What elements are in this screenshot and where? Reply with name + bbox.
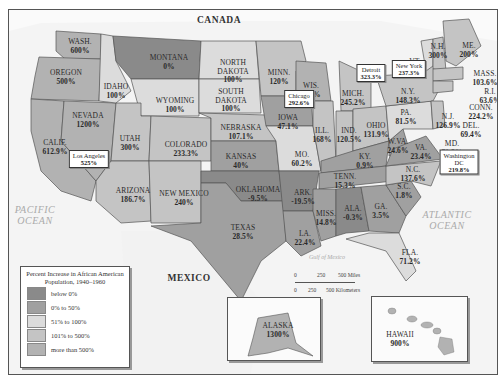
- inset-alaska: ALASKA1300%: [227, 297, 321, 361]
- scale-line: [295, 282, 355, 283]
- legend-item-below-0: below 0%: [27, 288, 129, 299]
- label-mo: MO.60.2%: [291, 151, 312, 168]
- scale-miles-250: 250: [317, 272, 325, 278]
- label-ri: R.I.63.6%: [479, 88, 498, 105]
- label-atlantic-ocean: ATLANTICOCEAN: [422, 209, 471, 231]
- label-wash: WASH.600%: [68, 38, 92, 55]
- label-ala: ALA.-0.3%: [343, 205, 363, 222]
- scale-miles-0: 0: [294, 272, 297, 278]
- legend-swatch: [27, 329, 46, 342]
- label-oregon: OREGON500%: [50, 69, 82, 86]
- legend-title: Percent Increase in African American Pop…: [21, 270, 129, 285]
- inset-hawaii: HAWAII900%: [371, 296, 468, 362]
- label-mass: MASS.103.6%: [473, 70, 498, 87]
- label-wyoming: WYOMING100%: [156, 97, 195, 114]
- label-south-dakota: SOUTH DAKOTA100%: [209, 88, 253, 114]
- label-fla: FLA.71.2%: [399, 249, 420, 266]
- legend-swatch: [27, 343, 46, 356]
- scale-miles-500: 500 Miles: [338, 272, 360, 278]
- legend-swatch: [27, 301, 46, 314]
- callout-new-york: New York237.3%: [392, 60, 426, 78]
- label-sc: S.C.1.8%: [395, 183, 412, 200]
- label-mich: MICH.245.2%: [341, 90, 366, 107]
- label-me: ME.200%: [459, 42, 478, 59]
- label-ky: KY.0.9%: [356, 153, 373, 170]
- label-nh: N.H.300%: [428, 43, 447, 60]
- label-utah: UTAH300%: [120, 135, 141, 152]
- label-miss: MISS.14.8%: [315, 210, 336, 227]
- state-conn: [433, 81, 453, 93]
- label-hawaii: HAWAII900%: [386, 331, 414, 348]
- label-nebraska: NEBRASKA107.1%: [220, 124, 261, 141]
- label-kansas: KANSAS40%: [226, 153, 257, 170]
- scale-km-0: 0: [294, 287, 297, 293]
- legend-item-0-50: 0% to 50%: [27, 302, 129, 313]
- label-pacific-ocean: PACIFICOCEAN: [15, 204, 56, 226]
- label-nj: N.J.126.9%: [436, 113, 461, 130]
- label-ny: N.Y.148.3%: [396, 88, 421, 105]
- scale-km-250: 250: [308, 287, 316, 293]
- legend-swatch: [27, 287, 46, 300]
- map-frame: WASH.600% OREGON500% CALIF.612.9% NEVADA…: [8, 9, 498, 375]
- label-ark: ARK.-19.5%: [291, 189, 315, 206]
- label-new-mexico: NEW MEXICO240%: [159, 190, 208, 207]
- label-ohio: OHIO131.9%: [364, 122, 389, 139]
- legend-swatch: [27, 315, 46, 328]
- label-oklahoma: OKLAHOMA-9.5%: [236, 186, 281, 203]
- callout-chicago: Chicago292.6%: [284, 90, 314, 108]
- label-wva: W.VA.24.6%: [387, 138, 408, 155]
- label-ind: IND.120.5%: [337, 127, 362, 144]
- label-va: VA.23.4%: [410, 144, 431, 161]
- label-minn: MINN.120%: [268, 69, 290, 86]
- label-montana: MONTANA0%: [150, 54, 188, 71]
- legend-item-101-500: 101% to 500%: [27, 330, 129, 341]
- label-calif: CALIF.612.9%: [43, 139, 68, 156]
- label-gulf-of-mexico: Gulf of Mexico: [309, 254, 345, 260]
- legend: Percent Increase in African American Pop…: [20, 266, 130, 368]
- label-la: LA.22.4%: [294, 230, 315, 247]
- callout-detroit: Detroit323.3%: [356, 64, 385, 82]
- state-mass: [433, 67, 463, 81]
- label-north-dakota: NORTH DAKOTA100%: [211, 59, 255, 85]
- label-alaska: ALASKA1300%: [262, 322, 293, 339]
- label-idaho: IDAHO100%: [104, 83, 129, 100]
- label-mexico: MEXICO: [167, 273, 210, 283]
- callout-washington-dc: Washington DC219.8%: [440, 150, 479, 175]
- legend-item-over-500: more than 500%: [27, 344, 129, 355]
- label-colorado: COLORADO233.3%: [165, 141, 207, 158]
- label-nevada: NEVADA1200%: [72, 112, 103, 129]
- callout-los-angeles: Los Angeles525%: [69, 150, 109, 168]
- label-conn: CONN.224.2%: [469, 104, 494, 121]
- label-pa: PA.81.5%: [395, 109, 416, 126]
- label-del: DEL.69.4%: [460, 122, 481, 139]
- label-arizona: ARIZONA186.7%: [116, 187, 150, 204]
- label-iowa: IOWA47.1%: [277, 114, 298, 131]
- scale-bar: 0 250 500 Miles 0 250 500 Kilometers: [294, 272, 364, 298]
- label-ill: ILL.168%: [312, 127, 331, 144]
- label-tenn: TENN.15.3%: [334, 173, 356, 190]
- label-ga: GA.3.5%: [372, 203, 389, 220]
- legend-item-51-100: 51% to 100%: [27, 316, 129, 327]
- label-canada: CANADA: [197, 15, 241, 25]
- scale-km-500: 500 Kilometers: [326, 287, 360, 293]
- label-texas: TEXAS28.5%: [231, 224, 256, 241]
- label-nc: N.C.137.6%: [401, 166, 426, 183]
